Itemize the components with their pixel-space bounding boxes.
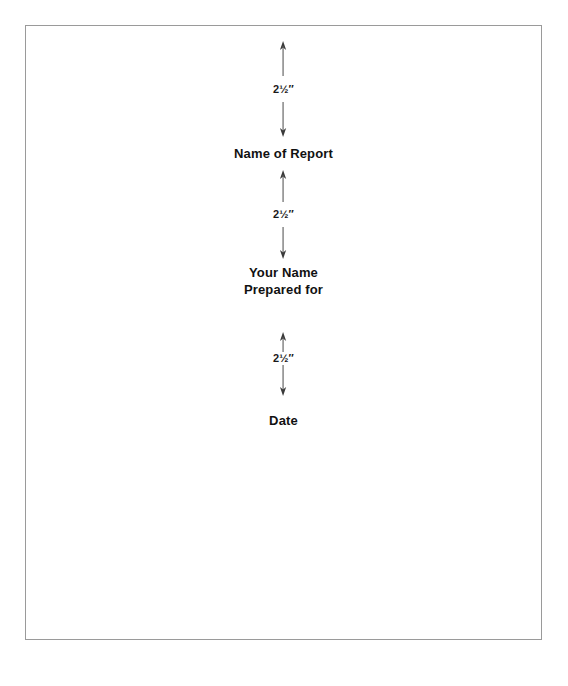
dimension-label-byline-to-date: 2½″ — [273, 352, 294, 365]
dimension-arrow-title-to-byline: 2½″ — [273, 169, 294, 260]
page-border: 2½″ Name of Report 2½″ Your Name Prepare… — [25, 25, 542, 640]
dimension-label-title-to-byline: 2½″ — [273, 208, 294, 221]
arrow-down-head-icon — [277, 102, 290, 138]
dimension-arrow-top-margin: 2½″ — [273, 40, 294, 138]
arrow-down-head-icon — [277, 227, 290, 260]
title-page-layout-column: 2½″ Name of Report 2½″ Your Name Prepare… — [26, 26, 541, 639]
byline-your-name: Your Name — [26, 264, 541, 281]
arrow-up-head-icon — [277, 331, 290, 352]
dimension-arrow-byline-to-date: 2½″ — [273, 331, 294, 397]
report-title-placeholder: Name of Report — [26, 145, 541, 162]
arrow-up-head-icon — [277, 40, 290, 76]
byline-prepared-for: Prepared for — [26, 281, 541, 298]
byline-block: Your Name Prepared for — [26, 264, 541, 298]
dimension-label-top-margin: 2½″ — [273, 83, 294, 96]
date-placeholder: Date — [26, 412, 541, 429]
arrow-down-head-icon — [277, 365, 290, 397]
arrow-up-head-icon — [277, 169, 290, 202]
